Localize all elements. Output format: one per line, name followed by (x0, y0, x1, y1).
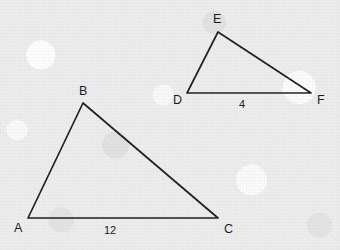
vertex-label-c: C (224, 222, 233, 236)
vertex-label-d: D (173, 93, 182, 107)
geometry-diagram: A B C 12 D E F 4 (0, 0, 340, 250)
triangle-abc: A B C 12 (14, 84, 233, 236)
vertex-label-a: A (14, 221, 23, 235)
vertex-label-b: B (79, 84, 87, 98)
triangle-def: D E F 4 (173, 12, 325, 110)
side-length-label-df: 4 (239, 98, 245, 110)
vertex-label-f: F (317, 93, 325, 107)
triangle-def-outline (187, 32, 311, 93)
triangle-abc-outline (28, 103, 218, 218)
side-length-label-ac: 12 (104, 224, 116, 236)
geometry-figure-canvas: A B C 12 D E F 4 (0, 0, 340, 250)
vertex-label-e: E (213, 12, 221, 26)
